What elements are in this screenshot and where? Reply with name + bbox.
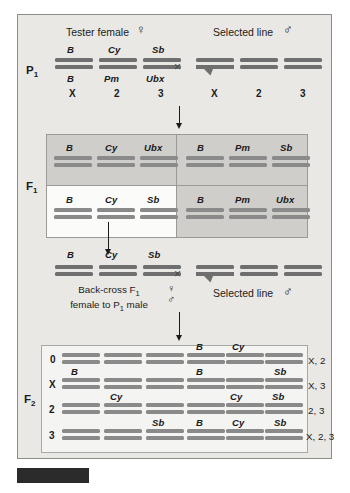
chromatid-lower bbox=[226, 410, 264, 414]
chromatid-upper bbox=[54, 208, 92, 212]
f1-bl-chromosome-2 bbox=[97, 208, 135, 221]
f2-row-3-left-chromosome-1 bbox=[62, 403, 100, 416]
chromatid-upper bbox=[229, 208, 267, 212]
f2-row-4-right-chromosome-2 bbox=[226, 429, 264, 442]
f1-br-chromosome-2 bbox=[229, 208, 267, 221]
chromatid-upper bbox=[196, 58, 234, 62]
chromatid-upper bbox=[187, 378, 225, 382]
f2-row-1-right-chromosome-2 bbox=[226, 353, 264, 366]
f2-row-2-left-gene-1: B bbox=[71, 366, 78, 377]
chromatid-upper bbox=[55, 58, 93, 62]
chromatid-upper bbox=[146, 429, 184, 433]
p1-female-bottom-gene-2: Pm bbox=[104, 73, 119, 84]
f1-tr-chromosome-1 bbox=[186, 156, 224, 169]
arrow-p1-to-f1 bbox=[175, 106, 184, 130]
f2-subscript: 2 bbox=[31, 399, 35, 408]
f1-tl-gene-3: Ubx bbox=[144, 142, 163, 153]
f2-row-2-right-chromosome-3 bbox=[265, 378, 303, 391]
f1-tl-chromosome-2 bbox=[97, 156, 135, 169]
chromatid-lower bbox=[284, 65, 322, 69]
arrow-shaft bbox=[108, 222, 109, 250]
chromatid-upper bbox=[146, 353, 184, 357]
backcross-right-header: Selected line bbox=[213, 287, 273, 299]
chromatid-upper bbox=[104, 403, 142, 407]
f2-row-2-left-chromosome-3 bbox=[146, 378, 184, 391]
chromatid-lower bbox=[99, 65, 137, 69]
f2-row-1-left-chromosome-2 bbox=[104, 353, 142, 366]
chromatid-lower bbox=[240, 272, 278, 276]
p1-right-header: Selected line bbox=[213, 26, 273, 38]
chromatid-upper bbox=[265, 353, 303, 357]
f1-tl-chromosome-3 bbox=[140, 156, 178, 169]
p1-male-chrnum-3: 3 bbox=[300, 88, 306, 99]
p1-left-header: Tester female bbox=[66, 26, 129, 38]
p1-female-top-gene-1: B bbox=[67, 44, 74, 55]
chromatid-lower bbox=[187, 385, 225, 389]
chromatid-upper bbox=[226, 403, 264, 407]
chromatid-upper bbox=[54, 156, 92, 160]
backcross-caption-line2a: female to P bbox=[70, 299, 120, 310]
chromatid-upper bbox=[187, 429, 225, 433]
chromatid-upper bbox=[265, 403, 303, 407]
f1-tl-gene-2: Cy bbox=[105, 142, 118, 153]
chromatid-lower bbox=[55, 272, 93, 276]
f2-row-2-label: X bbox=[49, 379, 56, 390]
chromatid-upper bbox=[284, 265, 322, 269]
chromatid-upper bbox=[240, 58, 278, 62]
chromatid-upper bbox=[97, 156, 135, 160]
f2-row-3-right-chromosome-3 bbox=[265, 403, 303, 416]
arrow-head bbox=[176, 123, 182, 129]
f2-row-3-right-chromosome-1 bbox=[187, 403, 225, 416]
p1-female-top-gene-3: Sb bbox=[152, 44, 165, 55]
chromatid-lower bbox=[54, 163, 92, 167]
f2-row-2-right-gene-3: Sb bbox=[274, 366, 287, 377]
chromatid-upper bbox=[196, 265, 234, 269]
p1-female-chromosome-x bbox=[55, 58, 93, 71]
chromatid-upper bbox=[62, 378, 100, 382]
chromatid-lower bbox=[97, 215, 135, 219]
arrow-shaft bbox=[179, 312, 180, 336]
chromatid-upper bbox=[226, 429, 264, 433]
chromatid-lower bbox=[104, 410, 142, 414]
p1-cross-symbol: × bbox=[174, 60, 181, 74]
f1-br-gene-1: B bbox=[197, 194, 204, 205]
f2-row-1-label: 0 bbox=[50, 354, 56, 365]
backcross-chromosome-2 bbox=[99, 265, 137, 278]
f1-bl-gene-2: Cy bbox=[105, 194, 118, 205]
f2-row-2-result: X, 3 bbox=[308, 380, 325, 391]
f2-letter: F bbox=[24, 393, 31, 405]
chromatid-lower bbox=[229, 215, 267, 219]
p1-female-chrnum-1: X bbox=[69, 88, 76, 99]
f2-row-2-right-gene-1: B bbox=[196, 366, 203, 377]
chromatid-upper bbox=[265, 378, 303, 382]
backcross-gene-1: B bbox=[67, 249, 74, 260]
chromatid-upper bbox=[62, 403, 100, 407]
f1-subscript: 1 bbox=[33, 186, 37, 195]
backcross-right-male-symbol-icon: ♂ bbox=[283, 285, 293, 298]
female-symbol-icon: ♀ bbox=[136, 23, 146, 36]
f1-tl-gene-1: B bbox=[66, 142, 73, 153]
f1-grid bbox=[46, 134, 308, 238]
chromatid-lower bbox=[187, 360, 225, 364]
chromatid-lower bbox=[284, 272, 322, 276]
f2-row-4-right-chromosome-3 bbox=[265, 429, 303, 442]
f1-tr-chromosome-2 bbox=[229, 156, 267, 169]
f2-row-2-right-chromosome-1 bbox=[187, 378, 225, 391]
f2-row-4-label: 3 bbox=[49, 430, 55, 441]
p1-female-chromosome-2 bbox=[99, 58, 137, 71]
f2-row-3-left-chromosome-3 bbox=[146, 403, 184, 416]
chromatid-lower bbox=[55, 65, 93, 69]
f2-row-2-left-chromosome-2 bbox=[104, 378, 142, 391]
chromatid-lower bbox=[226, 436, 264, 440]
chromatid-lower bbox=[62, 360, 100, 364]
chromatid-upper bbox=[99, 58, 137, 62]
backcross-gene-3: Sb bbox=[148, 249, 161, 260]
f2-row-4-result: X, 2, 3 bbox=[306, 431, 334, 442]
y-chromosome-hook-icon bbox=[196, 65, 234, 76]
f2-row-4-right-gene-1: B bbox=[196, 417, 203, 428]
backcross-male-chromosome-y bbox=[196, 265, 234, 278]
chromatid-lower bbox=[265, 360, 303, 364]
chromatid-lower bbox=[240, 65, 278, 69]
chromatid-upper bbox=[229, 156, 267, 160]
f2-row-1-right-gene-1: B bbox=[196, 341, 203, 352]
